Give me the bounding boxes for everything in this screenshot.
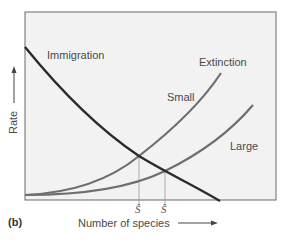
x-axis-label: Number of species — [78, 218, 170, 229]
small-island-label: Small — [167, 92, 195, 103]
immigration-label: Immigration — [47, 50, 104, 61]
panel-label: (b) — [8, 217, 22, 228]
y-axis-arrow-icon — [12, 66, 17, 73]
plot-frame — [25, 12, 276, 200]
s-hat-large-label: Ŝ — [161, 204, 167, 215]
x-axis-arrow-icon — [211, 221, 218, 226]
chart-canvas — [0, 0, 283, 241]
s-hat-small-label: Ŝ — [135, 204, 141, 215]
y-axis-label: Rate — [8, 111, 19, 134]
large-island-label: Large — [230, 141, 258, 152]
extinction-label: Extinction — [199, 57, 247, 68]
